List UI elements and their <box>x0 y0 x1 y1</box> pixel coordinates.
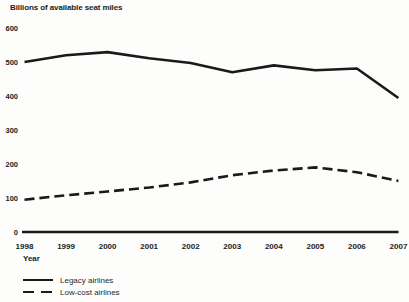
x-tick-label-2003: 2003 <box>223 242 241 251</box>
x-tick-label-2000: 2000 <box>99 242 117 251</box>
legend-item-legacy-airlines: Legacy airlines <box>23 274 120 286</box>
low-cost-airlines-line <box>25 167 399 199</box>
x-tick-label-1999: 1999 <box>57 242 75 251</box>
x-tick-label-2007: 2007 <box>390 242 408 251</box>
y-tick-label-100: 100 <box>0 194 18 203</box>
y-tick-label-500: 500 <box>0 58 18 67</box>
x-tick-label-2004: 2004 <box>265 242 283 251</box>
legend-label-legacy-airlines: Legacy airlines <box>60 276 113 285</box>
dashed-line-swatch <box>23 291 53 294</box>
seat-miles-line-chart: Billions of available seat miles 0100200… <box>0 0 409 302</box>
x-tick-label-2001: 2001 <box>140 242 158 251</box>
y-tick-label-400: 400 <box>0 92 18 101</box>
legend-label-low-cost-airlines: Low-cost airlines <box>60 288 120 297</box>
x-axis-title: Year <box>23 254 40 263</box>
x-tick-label-1998: 1998 <box>16 242 34 251</box>
legend: Legacy airlines Low-cost airlines <box>23 274 120 298</box>
y-tick-label-0: 0 <box>0 228 18 237</box>
y-tick-label-600: 600 <box>0 24 18 33</box>
y-tick-label-200: 200 <box>0 160 18 169</box>
y-tick-label-300: 300 <box>0 126 18 135</box>
legacy-airlines-line <box>25 52 399 98</box>
x-tick-label-2005: 2005 <box>306 242 324 251</box>
legend-item-low-cost-airlines: Low-cost airlines <box>23 286 120 298</box>
x-tick-label-2002: 2002 <box>182 242 200 251</box>
x-tick-label-2006: 2006 <box>348 242 366 251</box>
solid-line-swatch <box>23 279 53 282</box>
plot-area <box>0 0 409 302</box>
